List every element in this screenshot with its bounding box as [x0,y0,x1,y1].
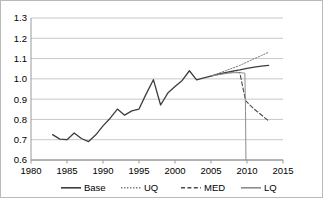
y-tick-label: 1.0 [14,73,27,84]
line-chart: 0.60.70.80.91.01.11.21.3 198019851990199… [1,1,323,198]
x-tick-label: 2000 [164,165,185,176]
x-axis-tick-labels: 19801985199019952000200520102015 [20,165,293,176]
legend-label-uq: UQ [144,182,158,193]
y-tick-label: 0.6 [14,154,27,165]
y-tick-label: 1.3 [14,12,27,23]
legend-label-med: MED [204,182,225,193]
y-axis-tick-labels: 0.60.70.80.91.01.11.21.3 [14,12,27,165]
y-tick-label: 1.2 [14,33,27,44]
y-tick-label: 0.7 [14,134,27,145]
y-tick-label: 0.9 [14,94,27,105]
y-tick-label: 0.8 [14,114,27,125]
legend-label-lq: LQ [264,182,277,193]
x-axis-tick-marks [31,160,283,164]
x-tick-label: 1995 [128,165,149,176]
chart-legend: BaseUQMEDLQ [61,182,277,193]
legend-label-base: Base [84,182,106,193]
x-tick-label: 1985 [56,165,77,176]
x-tick-label: 2015 [272,165,293,176]
y-tick-label: 1.1 [14,53,27,64]
x-tick-label: 2005 [200,165,221,176]
chart-frame: 0.60.70.80.91.01.11.21.3 198019851990199… [0,0,323,198]
x-tick-label: 1990 [92,165,113,176]
x-tick-label: 2010 [236,165,257,176]
x-tick-label: 1980 [20,165,41,176]
